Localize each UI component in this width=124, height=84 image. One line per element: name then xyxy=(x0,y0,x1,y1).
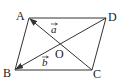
vertex-label-b: B xyxy=(3,66,11,80)
vector-label-a-group: a xyxy=(51,23,58,35)
vector-b-diagonal-db xyxy=(16,18,106,69)
vertex-label-d: D xyxy=(108,10,117,24)
center-label-o: O xyxy=(55,47,64,61)
vertex-label-a: A xyxy=(16,9,25,23)
vector-label-b: b xyxy=(42,56,48,68)
edge-dc xyxy=(92,18,106,70)
vector-label-b-group: b xyxy=(42,56,49,68)
vector-label-a: a xyxy=(51,23,57,35)
vertex-label-c: C xyxy=(93,67,101,81)
parallelogram-diagram: A D B C O a b xyxy=(0,0,124,84)
vector-a-diagonal-ca xyxy=(30,19,92,70)
edge-ba xyxy=(15,18,29,70)
